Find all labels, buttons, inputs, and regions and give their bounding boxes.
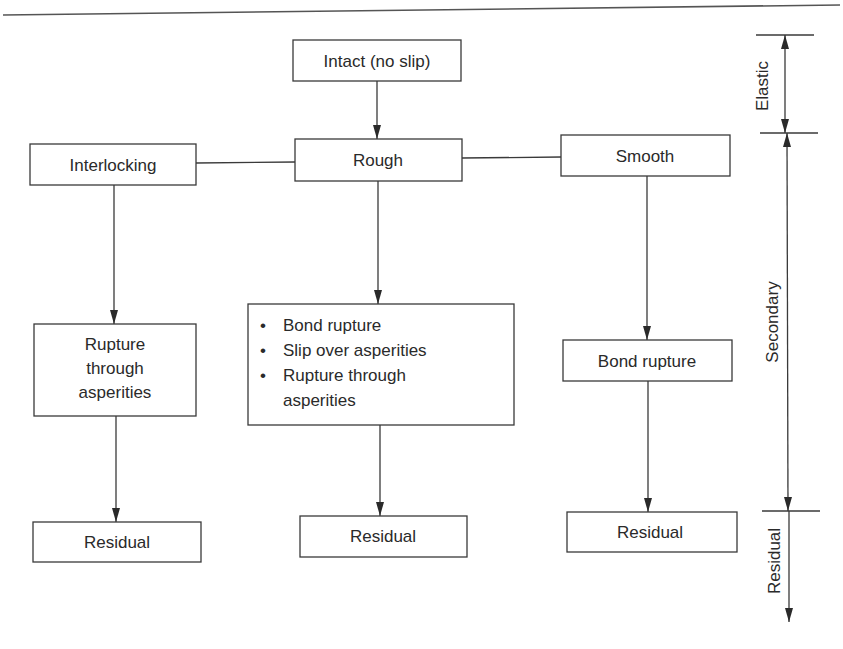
- interlocking-failure-line-2: through: [86, 359, 144, 378]
- node-rough-failure: • Bond rupture • Slip over asperities • …: [248, 304, 514, 425]
- node-smooth: Smooth: [561, 135, 730, 176]
- node-interlocking-failure: Rupture through asperities: [34, 324, 196, 416]
- node-smooth-failure: Bond rupture: [563, 340, 732, 381]
- rough-failure-item-2: Slip over asperities: [283, 341, 427, 360]
- bullet-icon: •: [260, 366, 266, 385]
- bullet-icon: •: [260, 316, 266, 335]
- rough-failure-item-1: Bond rupture: [283, 316, 381, 335]
- connector-rough-smooth: [462, 157, 561, 158]
- header-rule: [3, 5, 840, 15]
- stage-label-elastic: Elastic: [753, 60, 772, 111]
- bullet-icon: •: [260, 341, 266, 360]
- node-smooth-label: Smooth: [616, 147, 675, 166]
- node-intact-label: Intact (no slip): [324, 52, 431, 71]
- stage-label-residual: Residual: [765, 528, 784, 594]
- node-residual-middle: Residual: [300, 516, 467, 557]
- node-rough-label: Rough: [353, 151, 403, 170]
- node-interlocking: Interlocking: [30, 144, 196, 185]
- node-rough: Rough: [295, 139, 462, 181]
- stage-label-secondary: Secondary: [763, 281, 782, 363]
- secondary-range-arrow: [787, 133, 788, 511]
- node-residual-left: Residual: [33, 522, 201, 562]
- rough-failure-item-3-cont: asperities: [283, 391, 356, 410]
- residual-right-label: Residual: [617, 523, 683, 542]
- interlocking-failure-line-1: Rupture: [85, 335, 145, 354]
- failure-mode-diagram: Intact (no slip) Interlocking Rough Smoo…: [0, 0, 843, 649]
- node-residual-right: Residual: [567, 512, 737, 552]
- interlocking-failure-line-3: asperities: [79, 383, 152, 402]
- connector-interlocking-rough: [196, 162, 295, 163]
- rough-failure-item-3: Rupture through: [283, 366, 406, 385]
- node-interlocking-label: Interlocking: [70, 156, 157, 175]
- residual-middle-label: Residual: [350, 527, 416, 546]
- node-intact: Intact (no slip): [293, 40, 461, 81]
- stage-scale: Elastic Secondary Residual: [753, 35, 820, 622]
- node-smooth-failure-label: Bond rupture: [598, 352, 696, 371]
- residual-left-label: Residual: [84, 533, 150, 552]
